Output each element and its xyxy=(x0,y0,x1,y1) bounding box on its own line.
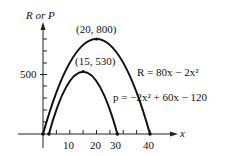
r-equation: R = 80x − 2x² xyxy=(137,66,199,78)
x-ticks xyxy=(56,130,150,134)
profit-curve xyxy=(49,72,118,134)
y-axis-arrow-icon xyxy=(41,22,46,30)
x-axis-label: x xyxy=(179,127,185,139)
r-vertex xyxy=(95,37,98,40)
x-tick-10: 10 xyxy=(63,139,75,151)
x-tick-20: 20 xyxy=(90,139,102,151)
r-root-right xyxy=(148,132,152,136)
p-vertex-label: (15, 530) xyxy=(75,55,116,68)
p-root-right xyxy=(116,132,120,136)
y-axis-label: R or P xyxy=(25,9,55,21)
chart: R or P x 500 10 20 30 40 (20, 800) (15, … xyxy=(0,0,231,156)
x-tick-30: 30 xyxy=(110,139,122,151)
p-equation: p = −2x² + 60x − 120 xyxy=(113,91,208,103)
revenue-curve xyxy=(43,39,150,134)
p-root-left xyxy=(47,132,51,136)
x-axis-arrow-icon xyxy=(170,132,178,137)
r-vertex-label: (20, 800) xyxy=(76,23,117,36)
p-vertex xyxy=(82,70,85,73)
y-tick-500: 500 xyxy=(20,68,37,80)
x-tick-40: 40 xyxy=(143,139,155,151)
origin-point xyxy=(41,132,45,136)
